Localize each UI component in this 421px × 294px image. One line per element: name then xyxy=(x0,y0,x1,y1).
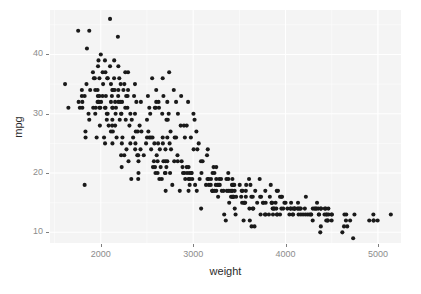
data-point xyxy=(165,135,169,139)
data-point xyxy=(130,118,134,122)
data-point xyxy=(152,159,156,163)
data-point xyxy=(109,82,113,86)
data-point xyxy=(234,195,238,199)
data-point xyxy=(258,177,262,181)
data-point xyxy=(163,171,167,175)
data-point xyxy=(125,106,129,110)
data-point xyxy=(304,195,308,199)
data-point xyxy=(299,207,303,211)
data-point xyxy=(199,171,203,175)
data-point xyxy=(145,118,149,122)
data-point xyxy=(238,183,242,187)
data-point xyxy=(315,201,319,205)
data-point xyxy=(165,100,169,104)
data-point xyxy=(326,207,330,211)
data-point xyxy=(187,165,191,169)
data-point xyxy=(139,100,143,104)
data-point xyxy=(128,141,132,145)
data-point xyxy=(185,124,189,128)
y-tick-label: 30 xyxy=(24,109,43,118)
data-point xyxy=(103,70,107,74)
data-point xyxy=(309,212,313,216)
data-point xyxy=(119,112,123,116)
data-point xyxy=(159,165,163,169)
data-point xyxy=(128,112,132,116)
data-point xyxy=(371,212,375,216)
data-point xyxy=(120,165,124,169)
data-point xyxy=(146,129,150,133)
data-point xyxy=(124,147,128,151)
data-point xyxy=(105,118,109,122)
x-tick-label: 3000 xyxy=(179,250,207,259)
data-point xyxy=(214,165,218,169)
data-point xyxy=(340,230,344,234)
data-point xyxy=(132,94,136,98)
data-point xyxy=(164,189,168,193)
data-point xyxy=(181,165,185,169)
data-point xyxy=(131,135,135,139)
data-point xyxy=(138,124,142,128)
data-point xyxy=(150,135,154,139)
data-point xyxy=(326,218,330,222)
data-point xyxy=(175,153,179,157)
data-point xyxy=(344,212,348,216)
data-point xyxy=(209,183,213,187)
x-tick-label: 2000 xyxy=(87,250,115,259)
data-point xyxy=(283,201,287,205)
data-point xyxy=(164,165,168,169)
y-tick-mark xyxy=(46,232,49,233)
data-point xyxy=(274,207,278,211)
data-point xyxy=(330,218,334,222)
data-point xyxy=(146,94,150,98)
data-point xyxy=(107,124,111,128)
data-point xyxy=(87,29,91,33)
data-point xyxy=(99,100,103,104)
data-point xyxy=(190,177,194,181)
data-point xyxy=(161,94,165,98)
data-point xyxy=(194,129,198,133)
data-point xyxy=(110,118,114,122)
data-point xyxy=(97,76,101,80)
data-point xyxy=(267,212,271,216)
data-point xyxy=(244,189,248,193)
data-point xyxy=(88,88,92,92)
y-axis-title: mpg xyxy=(12,116,24,137)
data-point xyxy=(103,58,107,62)
data-point xyxy=(80,106,84,110)
data-point xyxy=(163,147,167,151)
data-point xyxy=(99,52,103,56)
data-point xyxy=(111,129,115,133)
data-point xyxy=(168,129,172,133)
data-point xyxy=(101,82,105,86)
data-point xyxy=(139,129,143,133)
data-point xyxy=(344,218,348,222)
data-point xyxy=(259,195,263,199)
data-point xyxy=(150,76,154,80)
data-point xyxy=(170,183,174,187)
data-point xyxy=(98,124,102,128)
data-point xyxy=(133,141,137,145)
data-point xyxy=(112,58,116,62)
data-point xyxy=(268,195,272,199)
data-point xyxy=(117,76,121,80)
data-point xyxy=(209,177,213,181)
data-point xyxy=(86,112,90,116)
data-point xyxy=(212,171,216,175)
data-point xyxy=(303,207,307,211)
data-point xyxy=(226,177,230,181)
data-point xyxy=(87,118,91,122)
data-point xyxy=(102,135,106,139)
data-point xyxy=(244,195,248,199)
data-point xyxy=(248,183,252,187)
data-point xyxy=(114,112,118,116)
data-point xyxy=(176,112,180,116)
data-point xyxy=(187,189,191,193)
data-point xyxy=(271,212,275,216)
data-point xyxy=(161,135,165,139)
data-point xyxy=(263,189,267,193)
data-point xyxy=(252,224,256,228)
data-point xyxy=(176,159,180,163)
data-point xyxy=(94,106,98,110)
data-point xyxy=(84,82,88,86)
data-point xyxy=(118,118,122,122)
